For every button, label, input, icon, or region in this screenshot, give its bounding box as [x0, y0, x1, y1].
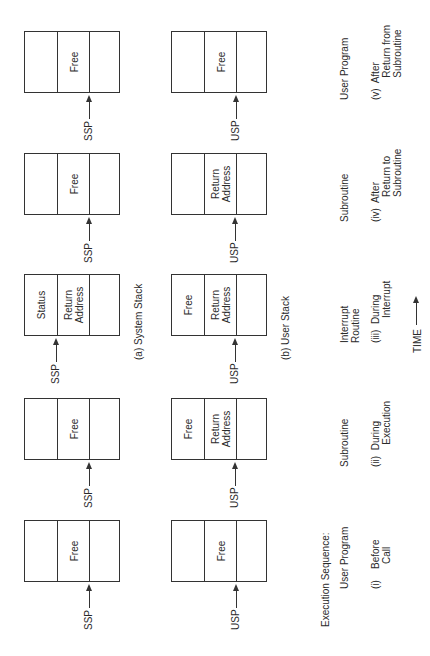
system-pointer-line: [89, 101, 90, 119]
slot-label: Free: [215, 541, 226, 562]
stack-slot: Free: [172, 399, 204, 459]
user-stack-box: FreeReturn Address: [171, 398, 267, 460]
execution-sequence-title: Execution Sequence:: [320, 532, 331, 627]
stack-slot: Status: [25, 275, 57, 335]
routine-label: Subroutine: [339, 174, 350, 222]
system-stack-box: Free: [24, 153, 120, 215]
user-pointer-label: USP: [230, 609, 241, 630]
stack-slot: [236, 32, 268, 92]
stack-slot: Free: [57, 399, 89, 459]
system-pointer-label: SSP: [83, 610, 94, 630]
stack-slot: [89, 275, 121, 335]
stack-slot: [89, 154, 121, 214]
stack-slot: [89, 32, 121, 92]
system-stack-box: Free: [24, 398, 120, 460]
system-stack-label: (a) System Stack: [133, 284, 144, 360]
user-pointer-label: USP: [229, 363, 240, 384]
stack-slot: [25, 32, 57, 92]
stack-slot: [236, 275, 268, 335]
user-pointer-line: [235, 468, 236, 486]
slot-label: Status: [36, 291, 47, 319]
user-stack-label: (b) User Stack: [280, 296, 291, 360]
routine-label: Subroutine: [339, 419, 350, 467]
system-pointer-line: [89, 223, 90, 241]
routine-label: User Program: [339, 38, 350, 100]
time-arrow-head: [413, 296, 419, 303]
system-pointer-label: SSP: [83, 488, 94, 508]
user-stack-box: Return Address: [171, 153, 267, 215]
stack-slot: Return Address: [57, 275, 89, 335]
slot-label: Return Address: [63, 287, 85, 324]
routine-label: Interrupt Routine: [339, 306, 361, 343]
stage-caption: (i) Before Call: [370, 540, 392, 589]
stage-caption: (v) After Return from Subroutine: [370, 25, 403, 100]
stack-slot: [236, 399, 268, 459]
system-pointer-label: SSP: [50, 364, 61, 384]
user-pointer-line: [236, 590, 237, 608]
stack-slot: Free: [172, 275, 204, 335]
system-stack-box: Free: [24, 31, 120, 93]
stack-slot: Return Address: [204, 275, 236, 335]
system-pointer-line: [56, 344, 57, 362]
stack-slot: [89, 521, 121, 581]
time-arrow-line: [416, 303, 417, 325]
user-stack-box: Free: [171, 520, 267, 582]
stack-slot: Return Address: [204, 154, 236, 214]
slot-label: Return Address: [210, 287, 232, 324]
slot-label: Free: [215, 52, 226, 73]
stack-slot: [25, 399, 57, 459]
stack-slot: [236, 154, 268, 214]
system-stack-box: Free: [24, 520, 120, 582]
user-pointer-line: [236, 101, 237, 119]
user-pointer-label: USP: [229, 487, 240, 508]
user-pointer-line: [235, 344, 236, 362]
slot-label: Free: [183, 419, 194, 440]
stack-slot: [25, 154, 57, 214]
user-pointer-line: [235, 223, 236, 241]
user-pointer-label: USP: [229, 242, 240, 263]
stack-slot: [89, 399, 121, 459]
system-pointer-label: SSP: [83, 243, 94, 263]
user-pointer-label: USP: [230, 120, 241, 141]
stack-slot: Free: [57, 154, 89, 214]
stack-slot: Return Address: [204, 399, 236, 459]
system-stack-box: StatusReturn Address: [24, 274, 120, 336]
time-label: TIME: [412, 329, 423, 353]
stack-slot: [172, 32, 204, 92]
user-stack-box: FreeReturn Address: [171, 274, 267, 336]
stack-slot: [25, 521, 57, 581]
system-pointer-line: [89, 590, 90, 608]
stack-slot: [172, 521, 204, 581]
stack-slot: Free: [204, 32, 236, 92]
stage-caption: (iv) After Return to Subroutine: [370, 149, 403, 222]
slot-label: Free: [68, 541, 79, 562]
slot-label: Free: [68, 419, 79, 440]
stack-slot: Free: [204, 521, 236, 581]
slot-label: Return Address: [210, 411, 232, 448]
system-pointer-label: SSP: [83, 121, 94, 141]
stack-slot: Free: [57, 521, 89, 581]
stack-slot: Free: [57, 32, 89, 92]
stack-slot: [236, 521, 268, 581]
stage-caption: (iii) During Interrupt: [370, 281, 392, 343]
system-pointer-line: [89, 468, 90, 486]
slot-label: Free: [68, 174, 79, 195]
user-stack-box: Free: [171, 31, 267, 93]
slot-label: Return Address: [210, 166, 232, 203]
stage-caption: (ii) During Execution: [370, 401, 392, 467]
stack-slot: [172, 154, 204, 214]
slot-label: Free: [68, 52, 79, 73]
slot-label: Free: [183, 295, 194, 316]
routine-label: User Program: [339, 527, 350, 589]
